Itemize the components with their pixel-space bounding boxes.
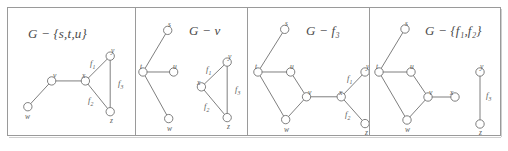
vertex-label-u: u bbox=[410, 62, 414, 71]
face-label-f3: f3 bbox=[118, 78, 123, 90]
edge-t-s bbox=[379, 29, 405, 72]
vertex-label-x: x bbox=[450, 88, 453, 97]
graph-drawing bbox=[136, 8, 247, 135]
edge-t-s bbox=[143, 30, 168, 72]
vertex-label-t: t bbox=[376, 62, 378, 71]
vertex-label-s: s bbox=[405, 19, 408, 28]
vertex-label-y: y bbox=[111, 46, 114, 55]
panel-g-minus-stu: G − {s,t,u} w v x bbox=[8, 8, 136, 135]
edge-t-s bbox=[258, 29, 285, 72]
node-w bbox=[24, 103, 32, 111]
edge-t-w bbox=[143, 72, 169, 119]
vertex-label-s: s bbox=[168, 20, 171, 29]
vertex-label-s: s bbox=[285, 19, 288, 28]
vertex-label-y: y bbox=[228, 52, 231, 61]
vertex-label-z: z bbox=[365, 128, 368, 135]
edge-v-w bbox=[407, 97, 428, 120]
face-label-f2: f2 bbox=[88, 95, 93, 107]
vertex-label-u: u bbox=[173, 62, 177, 71]
edge-w-v bbox=[28, 81, 52, 107]
vertex-label-y: y bbox=[366, 62, 369, 71]
vertex-label-z: z bbox=[110, 116, 113, 125]
vertex-label-z: z bbox=[227, 122, 230, 131]
graph-drawing bbox=[248, 8, 369, 135]
panel-container: G − {s,t,u} w v x bbox=[7, 7, 501, 136]
face-label-f3: f3 bbox=[486, 90, 491, 102]
vertex-label-v: v bbox=[429, 88, 432, 97]
node-z bbox=[223, 113, 231, 121]
face-label-f1: f1 bbox=[347, 73, 352, 85]
vertex-label-x: x bbox=[339, 88, 342, 97]
node-w bbox=[403, 116, 411, 124]
node-w bbox=[282, 115, 290, 123]
vertex-label-v: v bbox=[308, 88, 311, 97]
node-z bbox=[361, 119, 369, 127]
edge-t-w bbox=[258, 72, 286, 120]
face-label-f1: f1 bbox=[90, 58, 95, 70]
vertex-label-v: v bbox=[53, 71, 56, 80]
face-label-f3: f3 bbox=[235, 84, 240, 96]
vertex-label-z: z bbox=[479, 128, 482, 135]
face-label-f1: f1 bbox=[206, 64, 211, 76]
vertex-label-x: x bbox=[82, 71, 85, 80]
vertex-label-y: y bbox=[480, 62, 483, 71]
vertex-label-w: w bbox=[405, 125, 410, 134]
node-z bbox=[106, 108, 114, 116]
vertex-label-t: t bbox=[140, 62, 142, 71]
face-label-f2: f2 bbox=[204, 101, 209, 113]
vertex-label-u: u bbox=[290, 62, 294, 71]
node-w bbox=[165, 114, 173, 122]
edge-t-w bbox=[379, 72, 407, 120]
edge-x-y bbox=[341, 72, 365, 97]
face-label-f2: f2 bbox=[345, 109, 350, 121]
panel-g-minus-f1-f2: G − {f₁,f₂} bbox=[370, 8, 500, 135]
vertex-label-w: w bbox=[167, 124, 172, 133]
figure-shadow-bottom bbox=[9, 137, 501, 138]
panel-g-minus-v: G − v bbox=[136, 8, 248, 135]
node-z bbox=[476, 120, 484, 128]
panel-g-minus-f3: G − f₃ bbox=[248, 8, 370, 135]
vertex-label-w: w bbox=[25, 112, 30, 121]
vertex-label-x: x bbox=[197, 78, 200, 87]
vertex-label-w: w bbox=[284, 125, 289, 134]
graph-figure: G − {s,t,u} w v x bbox=[0, 0, 508, 151]
edge-v-w bbox=[286, 97, 307, 120]
graph-drawing bbox=[370, 8, 500, 135]
vertex-label-t: t bbox=[255, 62, 257, 71]
figure-shadow-right bbox=[501, 9, 502, 137]
